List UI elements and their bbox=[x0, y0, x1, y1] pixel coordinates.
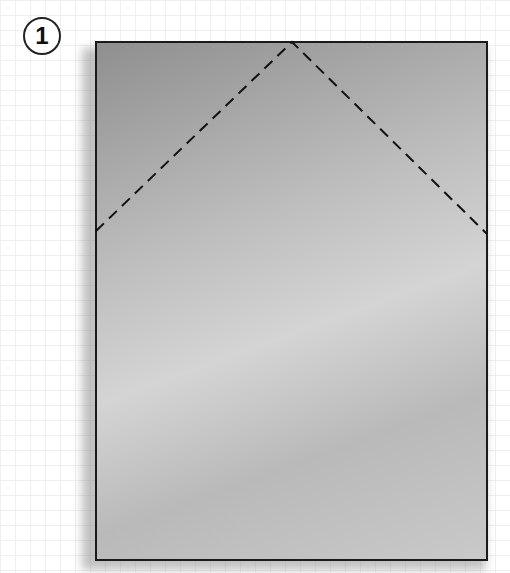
fold-lines bbox=[0, 0, 510, 573]
valley-fold-line bbox=[96, 42, 487, 234]
